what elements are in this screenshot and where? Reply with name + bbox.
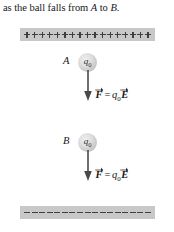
- minus-charge-icon: [130, 210, 136, 216]
- minus-charge-icon: [62, 210, 68, 216]
- force-equation-b: F=q0E: [95, 170, 129, 183]
- force-arrow-a-group: [0, 70, 174, 102]
- caption-prefix: as the ball falls from: [3, 2, 91, 13]
- minus-charge-icon: [145, 210, 151, 216]
- plus-charge-icon: [54, 32, 60, 38]
- minus-charge-icon: [92, 210, 98, 216]
- caption-middle: to: [97, 2, 110, 13]
- charge-symbol-a: q0: [112, 89, 121, 100]
- ball-a-charge-subscript: 0: [88, 61, 91, 68]
- ball-b-charge-subscript: 0: [88, 141, 91, 148]
- minus-charge-icon: [47, 210, 53, 216]
- plus-charge-icon: [32, 32, 38, 38]
- minus-charge-icon: [69, 210, 75, 216]
- point-label-a: A: [63, 55, 69, 66]
- negatively-charged-plate: [20, 206, 155, 219]
- minus-charge-icon: [85, 210, 91, 216]
- ball-a-charge-label: q0: [84, 57, 92, 68]
- positively-charged-plate: [20, 28, 155, 41]
- plus-charge-icon: [85, 32, 91, 38]
- ball-b-group: B q0: [0, 133, 174, 151]
- plus-charge-icon: [24, 32, 30, 38]
- field-symbol-b: E: [121, 170, 129, 181]
- equals-sign-a: =: [103, 89, 112, 100]
- electric-field-figure: as the ball falls from A to B. A q0 F=q0…: [0, 0, 174, 232]
- field-letter-a: E: [121, 89, 128, 100]
- caption-suffix: .: [117, 2, 120, 13]
- minus-charge-icon: [39, 210, 45, 216]
- figure-caption: as the ball falls from A to B.: [3, 1, 173, 14]
- plus-charge-icon: [122, 32, 128, 38]
- plus-charge-icon: [137, 32, 143, 38]
- force-letter-a: F: [96, 89, 103, 100]
- plus-charge-icon: [39, 32, 45, 38]
- ball-b-charge-label: q0: [84, 137, 92, 148]
- plus-charge-icon: [69, 32, 75, 38]
- plus-charge-icon: [47, 32, 53, 38]
- plus-charge-icon: [62, 32, 68, 38]
- minus-charge-icon: [32, 210, 38, 216]
- minus-charge-icon: [107, 210, 113, 216]
- minus-charge-icon: [137, 210, 143, 216]
- plus-charge-icon: [130, 32, 136, 38]
- ball-a-group: A q0: [0, 53, 174, 71]
- force-arrow-b-group: [0, 150, 174, 182]
- equals-sign-b: =: [103, 169, 112, 180]
- force-letter-b: F: [96, 169, 103, 180]
- minus-charge-icon: [100, 210, 106, 216]
- plus-charge-icon: [107, 32, 113, 38]
- negative-charge-row: [24, 206, 151, 219]
- positive-charge-row: [24, 28, 151, 41]
- force-arrow-b-icon: [81, 150, 95, 182]
- force-symbol-a: F: [95, 90, 103, 101]
- plus-charge-icon: [92, 32, 98, 38]
- field-letter-b: E: [121, 169, 128, 180]
- minus-charge-icon: [54, 210, 60, 216]
- plus-charge-icon: [100, 32, 106, 38]
- charge-symbol-b: q0: [112, 169, 121, 180]
- minus-charge-icon: [24, 210, 30, 216]
- force-arrow-a-icon: [81, 70, 95, 102]
- force-equation-a: F=q0E: [95, 90, 129, 103]
- minus-charge-icon: [122, 210, 128, 216]
- force-symbol-b: F: [95, 170, 103, 181]
- minus-charge-icon: [115, 210, 121, 216]
- plus-charge-icon: [77, 32, 83, 38]
- minus-charge-icon: [77, 210, 83, 216]
- field-symbol-a: E: [121, 90, 129, 101]
- plus-charge-icon: [145, 32, 151, 38]
- plus-charge-icon: [115, 32, 121, 38]
- point-label-b: B: [63, 135, 69, 146]
